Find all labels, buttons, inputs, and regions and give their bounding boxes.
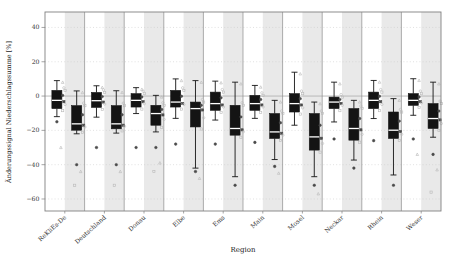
data-point-marker	[141, 96, 143, 98]
data-point-marker	[340, 93, 342, 95]
box	[171, 90, 181, 107]
x-tick-label: Mosel	[286, 214, 305, 232]
data-point-marker	[300, 104, 302, 106]
data-point-marker	[62, 110, 64, 112]
data-point-marker	[141, 108, 143, 110]
box	[289, 94, 299, 112]
data-point-marker	[418, 96, 420, 98]
x-tick-label: Donau	[127, 214, 147, 233]
boxplot-weser-left	[408, 79, 422, 156]
data-point-marker	[418, 106, 420, 108]
box	[190, 102, 200, 127]
region-band	[382, 12, 402, 211]
x-axis-title: Region	[231, 246, 256, 254]
data-point-marker	[261, 92, 263, 94]
outlier-point	[214, 143, 217, 146]
data-point-marker	[101, 86, 104, 89]
data-point-marker	[339, 110, 341, 112]
x-tick-label: Ems	[211, 214, 226, 228]
data-point-marker	[378, 110, 380, 112]
data-point-marker	[320, 137, 322, 139]
data-point-marker	[61, 81, 64, 84]
data-point-marker	[63, 87, 65, 89]
outlier-point	[392, 184, 395, 187]
data-point-marker	[181, 87, 183, 89]
y-tick-label: 40	[32, 23, 40, 30]
outlier-point	[313, 184, 316, 187]
region-band	[263, 12, 283, 211]
data-point-marker	[438, 110, 440, 112]
box	[72, 106, 82, 131]
outlier-point	[174, 143, 177, 146]
box	[250, 95, 260, 110]
data-point-marker	[162, 114, 164, 116]
y-tick-label: −40	[26, 161, 39, 168]
outlier-point	[56, 120, 59, 123]
data-point-marker	[319, 124, 321, 126]
outlier-point	[333, 138, 336, 141]
data-point-marker	[180, 79, 183, 82]
y-axis-title: Änderungssignal Niederschlagssumme [%]	[5, 41, 13, 184]
box	[52, 90, 62, 108]
outlier-point	[194, 170, 197, 173]
box	[329, 97, 339, 108]
box	[111, 106, 121, 129]
data-point-marker	[101, 95, 103, 97]
data-point-marker	[180, 108, 182, 110]
box	[230, 105, 240, 135]
data-point-marker	[201, 109, 203, 111]
box	[428, 104, 438, 129]
data-point-marker	[358, 117, 360, 119]
data-point-marker	[416, 153, 419, 156]
boxplot-donau-left	[131, 88, 145, 149]
data-point-marker	[160, 108, 162, 110]
boxplot-neckar-left	[329, 82, 343, 140]
boxplot-rhein-left	[369, 80, 383, 142]
outlier-point	[234, 184, 237, 187]
box	[210, 92, 220, 110]
data-point-marker	[259, 86, 262, 89]
outlier-point	[372, 139, 375, 142]
outlier-point	[353, 167, 356, 170]
outlier-point	[254, 141, 257, 144]
data-point-marker	[200, 104, 202, 106]
data-point-marker	[399, 130, 401, 132]
data-point-marker	[121, 114, 123, 116]
data-point-marker	[61, 94, 63, 96]
outlier-point	[273, 165, 276, 168]
outlier-point	[412, 138, 415, 141]
y-tick-label: 20	[32, 58, 40, 65]
data-point-marker	[339, 98, 341, 100]
data-point-marker	[220, 81, 223, 84]
y-tick-label: −60	[26, 195, 39, 202]
data-point-marker	[398, 120, 400, 122]
data-point-marker	[299, 73, 302, 76]
x-tick-label: ReKliEs-De	[37, 213, 68, 242]
data-point-marker	[378, 95, 380, 97]
y-tick-label: −20	[26, 126, 39, 133]
box	[91, 92, 101, 107]
outlier-point	[432, 153, 435, 156]
boxplot-main-left	[250, 85, 264, 143]
boxplot-elbe-left	[171, 79, 185, 145]
data-point-marker	[279, 122, 281, 124]
data-point-marker	[63, 101, 65, 103]
region-band	[302, 12, 322, 211]
y-tick-label: 0	[36, 92, 40, 99]
data-point-marker	[418, 79, 421, 82]
data-point-marker	[299, 113, 301, 115]
box	[408, 94, 418, 106]
box	[309, 114, 319, 151]
data-point-marker	[180, 95, 182, 97]
boxplot-mosel-left	[289, 72, 303, 125]
outlier-point	[95, 146, 98, 149]
box	[151, 105, 161, 125]
outlier-point	[75, 163, 78, 166]
outlier-point	[135, 146, 138, 149]
box	[388, 112, 398, 138]
x-tick-label: Main	[249, 214, 266, 230]
x-tick-label: Rhein	[366, 214, 384, 231]
outlier-point	[115, 163, 118, 166]
outlier-point	[155, 146, 158, 149]
data-point-marker	[101, 108, 103, 110]
